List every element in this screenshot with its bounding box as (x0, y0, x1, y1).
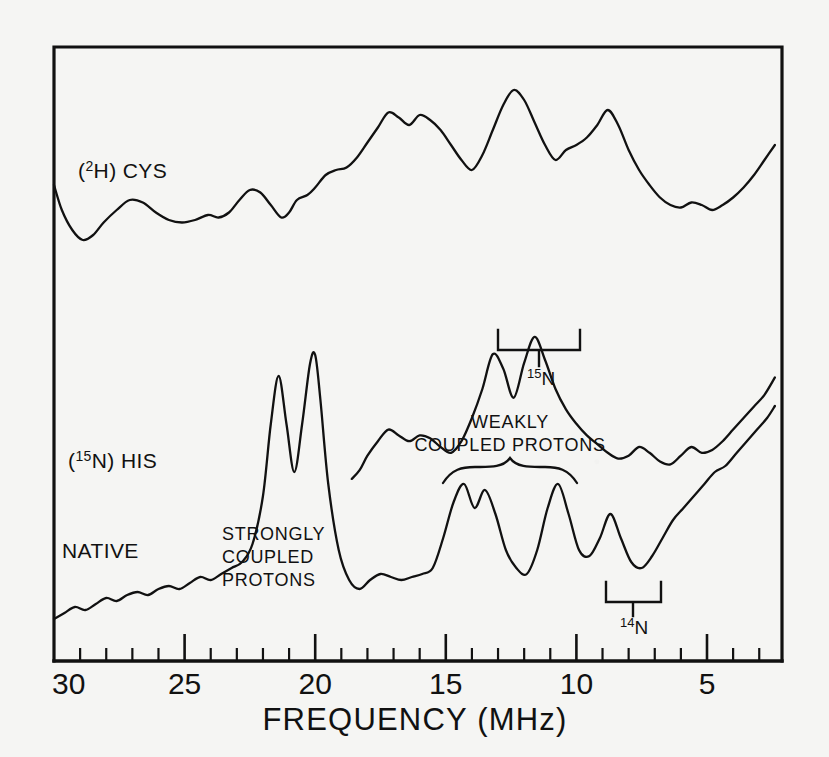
annot-strongly-line-2: COUPLED (222, 547, 314, 567)
x-tick-label: 15 (429, 667, 462, 700)
trace-label-main-cys: H) CYS (94, 159, 168, 182)
annotation-nitrogen-14: 14N (606, 582, 661, 638)
annot-weakly-line-2: COUPLED PROTONS (414, 435, 605, 455)
n14-main: N (634, 617, 648, 638)
annot-strongly-line-1: STRONGLY (222, 524, 325, 544)
n15-main: N (541, 368, 555, 389)
n14-bracket (606, 582, 661, 616)
x-axis-ticks (80, 634, 759, 661)
trace-label-main-his: N) HIS (92, 449, 157, 472)
figure-canvas: 30252015105 (2H) CYS (15N) HIS NATIVE ST… (0, 0, 829, 757)
weakly-coupled-brace (443, 458, 577, 483)
x-tick-label: 5 (699, 667, 716, 700)
annotation-nitrogen-15: 15N (498, 330, 580, 389)
spectrum-plot: 30252015105 (2H) CYS (15N) HIS NATIVE ST… (0, 0, 829, 757)
trace-native (54, 352, 775, 619)
x-tick-label: 10 (560, 667, 593, 700)
trace-n15-his (352, 337, 775, 479)
trace-label-native: NATIVE (62, 539, 139, 562)
trace-labels: (2H) CYS (15N) HIS NATIVE (62, 158, 167, 562)
trace-label-sup-15: 15 (75, 448, 91, 464)
n15-bracket-label: 15N (527, 366, 555, 389)
annot-strongly-line-3: PROTONS (222, 570, 316, 590)
x-axis-tick-labels: 30252015105 (52, 667, 715, 700)
plot-frame (54, 47, 782, 661)
trace-label-deuterated-cys: (2H) CYS (78, 158, 167, 182)
trace-label-sup-2: 2 (85, 158, 93, 174)
annotation-strongly-coupled-protons: STRONGLY COUPLED PROTONS (222, 524, 325, 590)
x-tick-label: 20 (299, 667, 332, 700)
trace-label-n15-his: (15N) HIS (68, 448, 157, 472)
frame-border (54, 47, 782, 661)
n14-sup: 14 (620, 615, 634, 630)
x-axis-title: FREQUENCY (MHz) (262, 702, 567, 737)
x-tick-label: 30 (52, 667, 85, 700)
n15-sup: 15 (527, 366, 541, 381)
x-tick-label: 25 (168, 667, 201, 700)
n14-bracket-label: 14N (620, 615, 648, 638)
x-axis: 30252015105 (52, 634, 782, 700)
n15-bracket (498, 330, 580, 366)
annot-weakly-line-1: WEAKLY (471, 412, 549, 432)
